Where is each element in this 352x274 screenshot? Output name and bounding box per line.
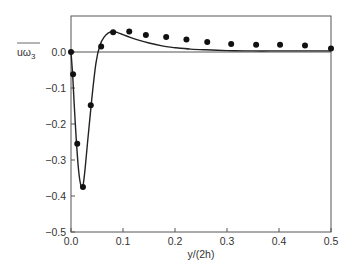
data-marker bbox=[328, 45, 334, 51]
data-marker bbox=[228, 41, 234, 47]
data-marker bbox=[68, 49, 74, 55]
data-marker bbox=[253, 42, 259, 48]
solid-curve bbox=[71, 31, 331, 188]
y-tick-label: −0.4 bbox=[45, 190, 66, 202]
data-markers bbox=[68, 28, 334, 190]
y-tick-label: 0.0 bbox=[51, 46, 66, 58]
x-tick-label: 0.3 bbox=[220, 235, 235, 247]
data-marker bbox=[126, 28, 132, 34]
data-marker bbox=[74, 141, 80, 147]
y-tick-label: −0.3 bbox=[45, 154, 66, 166]
data-marker bbox=[98, 44, 104, 50]
x-tick-label: 0.4 bbox=[272, 235, 287, 247]
svg-text:uω3: uω3 bbox=[17, 46, 36, 61]
x-axis-label: y/(2h) bbox=[188, 248, 215, 260]
x-tick-label: 0.5 bbox=[324, 235, 339, 247]
data-marker bbox=[70, 71, 76, 77]
data-marker bbox=[88, 102, 94, 108]
plot-frame bbox=[71, 16, 331, 232]
data-marker bbox=[204, 39, 210, 45]
data-marker bbox=[80, 184, 86, 190]
data-marker bbox=[163, 34, 169, 40]
y-tick-label: −0.5 bbox=[45, 226, 66, 238]
x-tick-label: 0.1 bbox=[116, 235, 131, 247]
y-tick-label: −0.2 bbox=[45, 118, 66, 130]
y-axis-label: uω3 bbox=[17, 43, 40, 61]
y-axis-label-sub: 3 bbox=[31, 52, 36, 61]
chart: 0.00.10.20.30.40.5 0.0−0.1−0.2−0.3−0.4−0… bbox=[0, 0, 352, 274]
y-tick-label: −0.1 bbox=[45, 82, 66, 94]
data-marker bbox=[143, 32, 149, 38]
data-marker bbox=[110, 29, 116, 35]
data-marker bbox=[302, 43, 308, 49]
y-axis-label-main: uω bbox=[17, 46, 31, 58]
data-marker bbox=[277, 42, 283, 48]
data-marker bbox=[183, 36, 189, 42]
x-axis-ticks: 0.00.10.20.30.40.5 bbox=[64, 228, 339, 247]
x-tick-label: 0.2 bbox=[168, 235, 183, 247]
